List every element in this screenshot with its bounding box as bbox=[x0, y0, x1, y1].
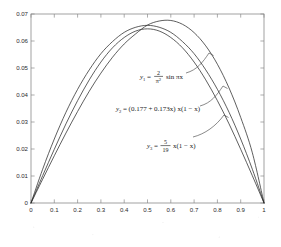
plot-svg: 0 0.01 0.02 0.03 0.04 0.05 0.06 0.07 0 0… bbox=[0, 0, 281, 247]
y-tick-label: 0.03 bbox=[16, 118, 28, 125]
annotation-y3-tail: x(1 − x) bbox=[173, 142, 196, 150]
x-tick-label: 0.9 bbox=[236, 206, 245, 213]
annotation-y3-eq: = bbox=[154, 142, 158, 150]
annotation-y1-numerator: 2 bbox=[157, 70, 160, 76]
x-tick-label: 0.8 bbox=[213, 206, 222, 213]
y-tick-label: 0.05 bbox=[16, 64, 28, 71]
annotation-y2-eq: = bbox=[123, 105, 127, 113]
x-tick-label: 0.3 bbox=[97, 206, 106, 213]
y-tick-label: 0.02 bbox=[16, 145, 28, 152]
x-tick-label: 0.5 bbox=[143, 206, 152, 213]
annotation-y2-body: (0.177 + 0.173x) x(1 − x) bbox=[129, 105, 201, 113]
annotation-y1-eq: = bbox=[147, 73, 151, 81]
figure-container: 0 0.01 0.02 0.03 0.04 0.05 0.06 0.07 0 0… bbox=[0, 0, 281, 247]
annotation-y2: y2=(0.177 + 0.173x) x(1 − x) bbox=[115, 105, 201, 114]
annotation-y3-denominator: 19 bbox=[163, 147, 169, 153]
y-tick-label: 0.04 bbox=[16, 91, 28, 98]
x-tick-label: 0.4 bbox=[120, 206, 129, 213]
x-tick-label: 0.2 bbox=[73, 206, 82, 213]
annotation-y1-tail: sin πx bbox=[166, 73, 183, 81]
x-tick-label: 0.6 bbox=[167, 206, 176, 213]
y-tick-label: 0.01 bbox=[16, 172, 28, 179]
x-tick-label: 0.1 bbox=[50, 206, 59, 213]
y-tick-label: 0.06 bbox=[16, 37, 28, 44]
annotation-y2-text: y2=(0.177 + 0.173x) x(1 − x) bbox=[115, 105, 201, 114]
annotation-y3-numerator: 5 bbox=[164, 139, 167, 145]
x-tick-label: 0.7 bbox=[190, 206, 199, 213]
y-tick-label: 0.07 bbox=[16, 10, 28, 17]
